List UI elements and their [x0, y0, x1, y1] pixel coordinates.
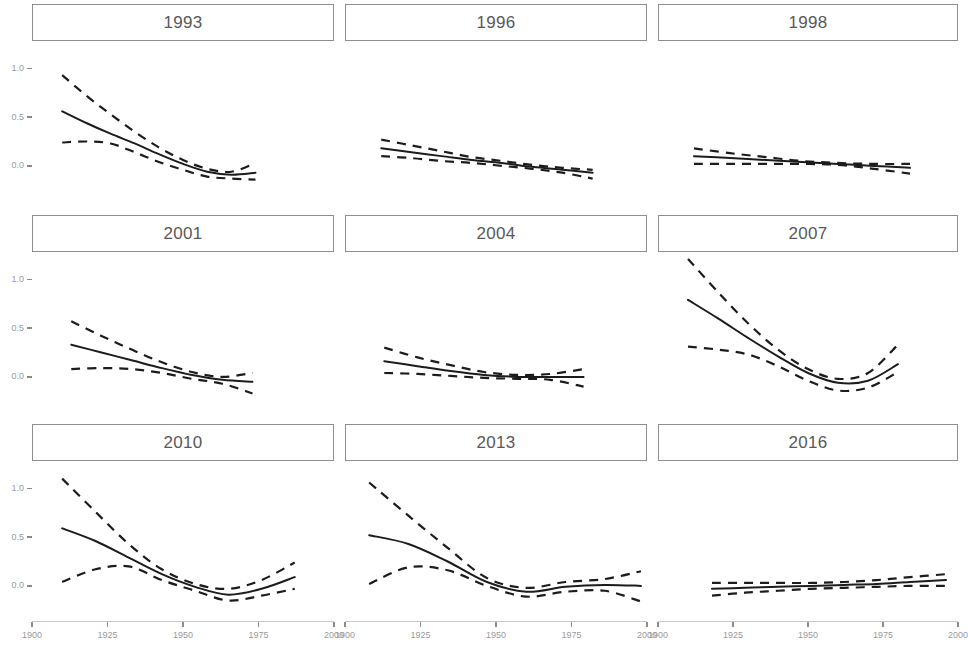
- facet-strip-2007: 2007: [658, 215, 958, 252]
- facet-strip-1998: 1998: [658, 4, 958, 41]
- plot-2013: [345, 464, 647, 620]
- x-axis-tick-mark: [420, 622, 422, 627]
- facet-2001: 2001: [32, 215, 334, 411]
- x-axis-tick-label: 1975: [873, 631, 893, 640]
- fit-curve: [381, 148, 592, 172]
- facet-strip-2001: 2001: [32, 215, 334, 252]
- ci-upper-curve: [62, 75, 255, 172]
- plot-2007: [658, 255, 958, 411]
- x-axis-tick-mark: [107, 622, 109, 627]
- facet-panel-2001: [32, 255, 334, 411]
- ci-upper-curve: [384, 348, 583, 375]
- facet-strip-2010: 2010: [32, 424, 334, 461]
- facet-strip-label: 2001: [163, 225, 202, 242]
- facet-2007: 2007: [658, 215, 958, 411]
- x-axis-tick-mark: [344, 622, 346, 627]
- x-axis-col-1: 19001925195019752000: [32, 622, 334, 651]
- x-axis-tick-label: 1950: [798, 631, 818, 640]
- facet-strip-label: 2010: [163, 434, 202, 451]
- fit-curve: [688, 300, 898, 384]
- facet-panel-1993: [32, 44, 334, 200]
- plot-2001: [32, 255, 334, 411]
- x-axis-tick-mark: [182, 622, 184, 627]
- facet-2010: 2010: [32, 424, 334, 620]
- x-axis-tick: 1925: [723, 622, 743, 640]
- x-axis-tick-label: 1900: [648, 631, 668, 640]
- x-axis-tick: 1925: [97, 622, 117, 640]
- plot-1998: [658, 44, 958, 200]
- fit-curve: [384, 361, 583, 377]
- x-axis-tick-label: 1975: [248, 631, 268, 640]
- facet-strip-2016: 2016: [658, 424, 958, 461]
- x-axis-tick: 2000: [948, 622, 968, 640]
- x-axis-tick: 1975: [873, 622, 893, 640]
- facet-panel-1998: [658, 44, 958, 200]
- facet-strip-1996: 1996: [345, 4, 647, 41]
- facet-strip-label: 1998: [788, 14, 827, 31]
- x-axis-tick: 1950: [798, 622, 818, 640]
- x-axis-tick: 1975: [561, 622, 581, 640]
- fit-curve: [369, 535, 641, 592]
- plot-1996: [345, 44, 647, 200]
- facet-strip-label: 2004: [476, 225, 515, 242]
- x-axis-tick: 1900: [335, 622, 355, 640]
- x-axis-tick-mark: [571, 622, 573, 627]
- facet-panel-2007: [658, 255, 958, 411]
- x-axis-tick-mark: [657, 622, 659, 627]
- ci-lower-curve: [62, 566, 295, 601]
- x-axis-tick-mark: [882, 622, 884, 627]
- x-axis-tick-label: 2000: [948, 631, 968, 640]
- x-axis-tick-mark: [732, 622, 734, 627]
- facet-strip-label: 2013: [476, 434, 515, 451]
- plot-2016: [658, 464, 958, 620]
- facet-1996: 1996: [345, 4, 647, 200]
- ci-upper-curve: [381, 140, 592, 170]
- plot-1993: [32, 44, 334, 200]
- x-axis-tick-label: 1900: [335, 631, 355, 640]
- x-axis-tick-label: 1925: [410, 631, 430, 640]
- ci-upper-curve: [369, 483, 641, 588]
- x-axis-tick: 1900: [22, 622, 42, 640]
- ci-lower-curve: [369, 566, 641, 601]
- x-axis-tick-mark: [31, 622, 33, 627]
- facet-strip-label: 2007: [788, 225, 827, 242]
- facet-2013: 2013: [345, 424, 647, 620]
- x-axis-tick-mark: [258, 622, 260, 627]
- x-axis-tick: 1925: [410, 622, 430, 640]
- fit-curve: [62, 111, 255, 174]
- x-axis-tick-label: 1925: [723, 631, 743, 640]
- facet-strip-1993: 1993: [32, 4, 334, 41]
- x-axis-col-3: 19001925195019752000: [658, 622, 958, 651]
- fit-curve: [694, 156, 910, 168]
- x-axis-tick-mark: [807, 622, 809, 627]
- x-axis-tick-mark: [957, 622, 959, 627]
- x-axis-tick-mark: [495, 622, 497, 627]
- facet-2016: 2016: [658, 424, 958, 620]
- facet-panel-2016: [658, 464, 958, 620]
- ci-upper-curve: [62, 479, 295, 589]
- x-axis-tick-label: 1950: [486, 631, 506, 640]
- x-axis-tick-label: 1900: [22, 631, 42, 640]
- x-axis-col-2: 19001925195019752000: [345, 622, 647, 651]
- facet-2004: 2004: [345, 215, 647, 411]
- ci-lower-curve: [688, 347, 898, 391]
- facet-strip-2013: 2013: [345, 424, 647, 461]
- plot-2010: [32, 464, 334, 620]
- x-axis-tick-label: 1950: [173, 631, 193, 640]
- fit-curve: [62, 528, 295, 594]
- plot-2004: [345, 255, 647, 411]
- x-axis-tick: 1950: [486, 622, 506, 640]
- facet-1993: 1993: [32, 4, 334, 200]
- facet-strip-label: 2016: [788, 434, 827, 451]
- facet-strip-2004: 2004: [345, 215, 647, 252]
- facet-panel-2004: [345, 255, 647, 411]
- x-axis-tick-label: 1975: [561, 631, 581, 640]
- facet-strip-label: 1993: [163, 14, 202, 31]
- x-axis-tick: 1950: [173, 622, 193, 640]
- facet-strip-label: 1996: [476, 14, 515, 31]
- x-axis-tick: 1975: [248, 622, 268, 640]
- facet-panel-2013: [345, 464, 647, 620]
- facet-1998: 1998: [658, 4, 958, 200]
